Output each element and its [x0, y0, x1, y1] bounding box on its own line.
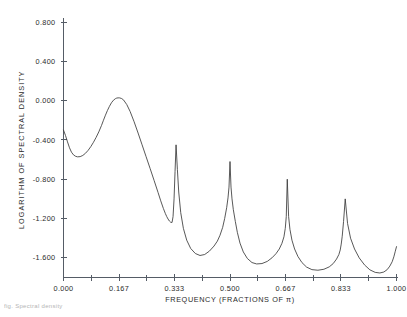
y-tick-label: -0.400	[33, 136, 56, 145]
chart-background	[0, 0, 407, 317]
figure-caption: fig. Spectral density	[4, 303, 63, 309]
x-tick-label: 1.000	[386, 284, 406, 293]
y-tick-label: 0.000	[35, 96, 55, 105]
x-tick-label: 0.167	[109, 284, 129, 293]
y-tick-label: 0.400	[35, 57, 55, 66]
y-tick-label: -1.600	[33, 253, 56, 262]
x-axis-title: FREQUENCY (FRACTIONS OF π)	[165, 295, 295, 304]
x-tick-label: 0.500	[220, 284, 240, 293]
x-tick-label: 0.000	[53, 284, 73, 293]
x-tick-label: 0.833	[331, 284, 351, 293]
y-tick-label: -0.800	[33, 175, 56, 184]
y-axis-title: LOGARITHM OF SPECTRAL DENSITY	[17, 71, 26, 229]
x-tick-label: 0.333	[164, 284, 184, 293]
y-tick-label: 0.800	[35, 18, 55, 27]
spectral-density-figure: 0.8000.4000.000-0.400-0.800-1.200-1.600 …	[0, 0, 407, 317]
y-tick-label: -1.200	[33, 214, 56, 223]
spectral-density-chart: 0.8000.4000.000-0.400-0.800-1.200-1.600 …	[0, 0, 407, 317]
x-tick-label: 0.667	[276, 284, 296, 293]
